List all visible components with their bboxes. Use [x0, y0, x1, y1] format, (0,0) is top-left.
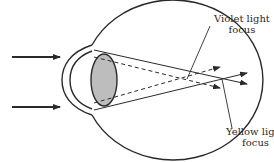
yellow-focus-leader [222, 79, 232, 128]
violet-focus-leader [187, 26, 210, 79]
lens [91, 54, 117, 106]
yellow-label-line1: Yellow light [226, 126, 274, 137]
eye-diagram: Violet light focus Yellow light focus [0, 0, 274, 162]
yellow-label-line2: focus [226, 137, 274, 148]
yellow-focus-label: Yellow light focus [226, 126, 274, 148]
violet-label-line2: focus [214, 24, 270, 35]
violet-focus-label: Violet light focus [214, 13, 270, 35]
cornea [62, 45, 92, 115]
violet-label-line1: Violet light [214, 13, 270, 24]
